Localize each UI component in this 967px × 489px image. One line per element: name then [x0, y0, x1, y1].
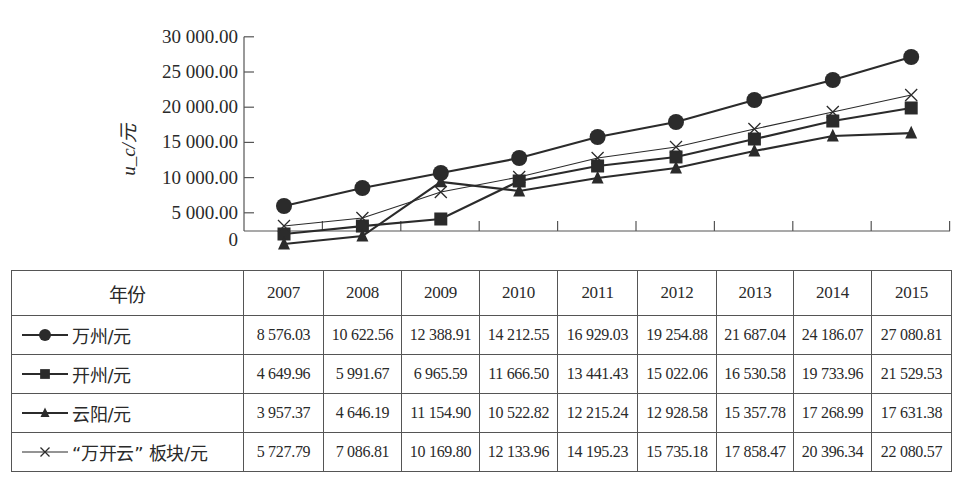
- value-cell: 19 254.88: [638, 316, 717, 355]
- circle-marker: [511, 150, 527, 166]
- series-legend-cell: 万州/元: [12, 316, 244, 355]
- y-axis-label: u_c/元: [118, 122, 139, 176]
- year-cell: 2012: [638, 271, 717, 316]
- circle-marker: [903, 49, 919, 65]
- value-cell: 6 965.59: [402, 355, 480, 394]
- value-cell: 10 169.80: [402, 433, 480, 472]
- y-tick-label: 30 000.00: [162, 26, 238, 47]
- value-cell: 20 396.34: [794, 433, 872, 472]
- value-cell: 17 268.99: [794, 394, 872, 433]
- circle-marker: [590, 129, 606, 145]
- value-cell: 17 631.38: [872, 394, 952, 433]
- circle-marker: [39, 329, 51, 341]
- year-cell: 2014: [794, 271, 872, 316]
- x-axis: [244, 221, 950, 231]
- x-marker: [435, 186, 447, 198]
- value-cell: 13 441.43: [558, 355, 638, 394]
- value-cell: 21 687.04: [717, 316, 794, 355]
- value-cell: 21 529.53: [872, 355, 952, 394]
- circle-marker: [668, 114, 684, 130]
- value-cell: 27 080.81: [872, 316, 952, 355]
- value-cell: 24 186.07: [794, 316, 872, 355]
- series-label: 云阳/元: [72, 404, 131, 425]
- y-tick-label: 10 000.00: [162, 167, 238, 188]
- series-circle: [276, 49, 919, 214]
- value-cell: 4 646.19: [324, 394, 402, 433]
- circle-marker: [746, 92, 762, 108]
- value-cell: 12 215.24: [558, 394, 638, 433]
- year-cell: 2013: [717, 271, 794, 316]
- value-cell: 19 733.96: [794, 355, 872, 394]
- square-marker-icon: [20, 364, 70, 384]
- series-legend-cell: 云阳/元: [12, 394, 244, 433]
- value-cell: 15 357.78: [717, 394, 794, 433]
- table-row: 云阳/元3 957.374 646.1911 154.9010 522.8212…: [12, 394, 952, 433]
- value-cell: 10 622.56: [324, 316, 402, 355]
- circle-marker: [276, 198, 292, 214]
- series-layer: [276, 49, 919, 249]
- value-cell: 22 080.57: [872, 433, 952, 472]
- series-legend-cell: “万开云” 板块/元: [12, 433, 244, 472]
- y-tick-label: 0: [229, 229, 239, 250]
- y-axis: 05 000.0010 000.0015 000.0020 000.0025 0…: [162, 26, 254, 250]
- value-cell: 12 388.91: [402, 316, 480, 355]
- series-label: 开州/元: [72, 365, 131, 386]
- table-row: 开州/元4 649.965 991.676 965.5911 666.5013 …: [12, 355, 952, 394]
- year-cell: 2009: [402, 271, 480, 316]
- series-legend-cell: 开州/元: [12, 355, 244, 394]
- year-cell: 2015: [872, 271, 952, 316]
- value-cell: 10 522.82: [480, 394, 558, 433]
- circle-marker-icon: [20, 325, 70, 345]
- x-marker-icon: [20, 442, 70, 462]
- value-cell: 14 195.23: [558, 433, 638, 472]
- value-cell: 11 154.90: [402, 394, 480, 433]
- square-marker: [434, 212, 447, 225]
- value-cell: 11 666.50: [480, 355, 558, 394]
- circle-marker: [354, 180, 370, 196]
- y-tick-label: 15 000.00: [162, 131, 238, 152]
- value-cell: 15 735.18: [638, 433, 717, 472]
- value-cell: 14 212.55: [480, 316, 558, 355]
- value-cell: 17 858.47: [717, 433, 794, 472]
- square-marker: [905, 101, 918, 114]
- series-label: “万开云” 板块/元: [72, 443, 207, 464]
- year-header: 年份: [12, 271, 244, 316]
- series-line: [284, 133, 911, 244]
- y-tick-label: 5 000.00: [172, 202, 239, 223]
- x-marker: [905, 89, 917, 101]
- y-tick-label: 25 000.00: [162, 61, 238, 82]
- value-cell: 12 928.58: [638, 394, 717, 433]
- square-marker: [40, 369, 50, 379]
- value-cell: 16 929.03: [558, 316, 638, 355]
- square-marker: [591, 159, 604, 172]
- y-tick-label: 20 000.00: [162, 96, 238, 117]
- year-cell: 2010: [480, 271, 558, 316]
- value-cell: 5 727.79: [244, 433, 324, 472]
- table-row: “万开云” 板块/元5 727.797 086.8110 169.8012 13…: [12, 433, 952, 472]
- value-cell: 4 649.96: [244, 355, 324, 394]
- series-label: 万州/元: [72, 326, 131, 347]
- data-table: 年份 2007 2008 2009 2010 2011 2012 2013 20…: [11, 270, 952, 472]
- value-cell: 8 576.03: [244, 316, 324, 355]
- table-header-row: 年份 2007 2008 2009 2010 2011 2012 2013 20…: [12, 271, 952, 316]
- year-cell: 2011: [558, 271, 638, 316]
- year-cell: 2007: [244, 271, 324, 316]
- circle-marker: [825, 72, 841, 88]
- line-chart: 05 000.0010 000.0015 000.0020 000.0025 0…: [0, 0, 967, 262]
- year-cell: 2008: [324, 271, 402, 316]
- value-cell: 15 022.06: [638, 355, 717, 394]
- value-cell: 7 086.81: [324, 433, 402, 472]
- triangle-marker-icon: [20, 403, 70, 423]
- value-cell: 5 991.67: [324, 355, 402, 394]
- value-cell: 12 133.96: [480, 433, 558, 472]
- value-cell: 16 530.58: [717, 355, 794, 394]
- value-cell: 3 957.37: [244, 394, 324, 433]
- table-row: 万州/元8 576.0310 622.5612 388.9114 212.551…: [12, 316, 952, 355]
